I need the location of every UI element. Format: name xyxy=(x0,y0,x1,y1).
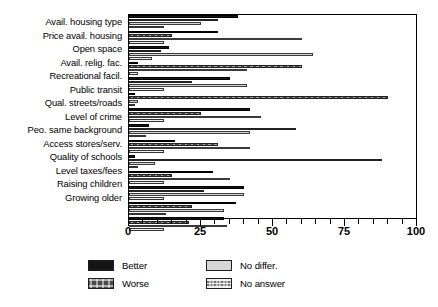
bar-no-differ xyxy=(129,100,138,103)
bar-group xyxy=(129,31,417,47)
bar-group xyxy=(129,108,417,124)
bar-no-differ xyxy=(129,22,201,25)
legend-item-no-differ: No differ. xyxy=(206,260,277,271)
bar-group xyxy=(129,77,417,93)
bar-better xyxy=(129,140,175,143)
x-tick-label: 0 xyxy=(125,224,131,238)
legend-swatch-no-differ-icon xyxy=(206,260,232,271)
bar-spacer xyxy=(129,180,417,181)
legend-label-no-differ: No differ. xyxy=(240,260,277,271)
bar-spacer xyxy=(129,161,417,162)
bar-no-differ xyxy=(129,84,247,87)
chart-figure: Avail. housing typePrice avail. housingO… xyxy=(0,0,438,307)
bar-group xyxy=(129,62,417,78)
bar-no-answer xyxy=(129,104,135,107)
bar-better xyxy=(129,93,135,96)
legend-swatch-worse-icon xyxy=(88,278,114,289)
bar-worse xyxy=(129,128,296,131)
y-axis-label: Raising children xyxy=(0,177,125,191)
y-axis-label: Public transit xyxy=(0,83,125,97)
bar-worse xyxy=(129,112,201,115)
bar-better xyxy=(129,202,236,205)
legend-swatch-better-icon xyxy=(88,260,114,271)
bar-spacer xyxy=(129,165,417,166)
bar-no-answer xyxy=(129,41,164,44)
bar-group xyxy=(129,15,417,31)
bar-better xyxy=(129,62,138,65)
bar-no-differ xyxy=(129,178,230,181)
bar-worse xyxy=(129,50,161,53)
bar-worse xyxy=(129,159,382,162)
bar-no-answer xyxy=(129,88,164,91)
bar-group xyxy=(129,186,417,202)
bar-worse xyxy=(129,65,302,68)
bar-group xyxy=(129,140,417,156)
bar-worse xyxy=(129,190,204,193)
legend-row-1: Better No differ. xyxy=(88,256,348,274)
bar-spacer xyxy=(129,25,417,26)
bar-spacer xyxy=(129,173,417,174)
bar-no-differ xyxy=(129,38,302,41)
bar-no-answer xyxy=(129,72,138,75)
bar-spacer xyxy=(129,87,417,88)
y-axis-category-labels: Avail. housing typePrice avail. housingO… xyxy=(0,15,125,218)
bar-no-answer xyxy=(129,135,146,138)
bar-spacer xyxy=(129,118,417,119)
bar-no-differ xyxy=(129,116,261,119)
bar-no-answer xyxy=(129,213,166,216)
y-axis-label: Recreational facil. xyxy=(0,69,125,83)
bar-better xyxy=(129,15,238,18)
y-axis-label: Avail. relig. fac. xyxy=(0,56,125,70)
bar-spacer xyxy=(129,33,417,34)
bar-better xyxy=(129,31,218,34)
bar-worse xyxy=(129,143,218,146)
bar-worse xyxy=(129,96,388,99)
bar-no-differ xyxy=(129,162,155,165)
bar-worse xyxy=(129,81,192,84)
bar-worse xyxy=(129,34,172,37)
bar-group xyxy=(129,202,417,218)
y-axis-label: Peo. same background xyxy=(0,123,125,137)
bar-no-differ xyxy=(129,131,250,134)
bar-group xyxy=(129,124,417,140)
bar-no-differ xyxy=(129,209,224,212)
bar-no-answer xyxy=(129,26,164,29)
legend-item-worse: Worse xyxy=(88,278,206,289)
legend-label-no-answer: No answer xyxy=(240,278,285,289)
bar-no-answer xyxy=(129,197,164,200)
x-tick-label: 25 xyxy=(194,224,206,238)
bar-spacer xyxy=(129,40,417,41)
bar-spacer xyxy=(129,103,417,104)
y-axis-label: Growing older xyxy=(0,191,125,205)
y-axis-label: Level of crime xyxy=(0,110,125,124)
bar-group xyxy=(129,93,417,109)
bar-better xyxy=(129,46,169,49)
bar-spacer xyxy=(129,99,417,100)
legend-label-worse: Worse xyxy=(122,278,149,289)
y-axis-label: Price avail. housing xyxy=(0,29,125,43)
legend-row-2: Worse No answer xyxy=(88,274,348,292)
chart-legend: Better No differ. Worse No answer xyxy=(88,256,348,300)
bar-no-answer xyxy=(129,150,164,153)
bar-no-differ xyxy=(129,193,244,196)
bar-better xyxy=(129,171,213,174)
bar-worse xyxy=(129,19,218,22)
legend-item-no-answer: No answer xyxy=(206,278,285,289)
bar-no-answer xyxy=(129,181,164,184)
y-axis-label: Level taxes/fees xyxy=(0,164,125,178)
bar-no-answer xyxy=(129,166,138,169)
bar-better xyxy=(129,124,149,127)
bar-better xyxy=(129,108,250,111)
legend-label-better: Better xyxy=(122,260,147,271)
legend-swatch-no-answer-icon xyxy=(206,278,232,289)
bar-spacer xyxy=(129,149,417,150)
bar-no-differ xyxy=(129,53,313,56)
bar-spacer xyxy=(129,56,417,57)
bar-no-answer xyxy=(129,57,152,60)
bar-group xyxy=(129,46,417,62)
y-axis-label: Qual. streets/roads xyxy=(0,96,125,110)
y-axis-label: Quality of schools xyxy=(0,150,125,164)
y-axis-label: Open space xyxy=(0,42,125,56)
bar-worse xyxy=(129,174,172,177)
bar-group xyxy=(129,155,417,171)
